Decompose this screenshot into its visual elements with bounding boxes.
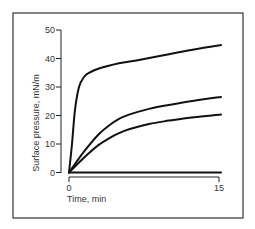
x-tick-label: 15 bbox=[214, 183, 224, 193]
y-tick-label: 50 bbox=[45, 25, 55, 35]
y-tick-label: 20 bbox=[45, 111, 55, 121]
y-tick-label: 10 bbox=[45, 139, 55, 149]
y-axis: 01020304050 bbox=[45, 25, 61, 178]
y-ticks: 01020304050 bbox=[45, 25, 61, 178]
y-axis-label: Surface pressure, mN/m bbox=[31, 74, 41, 172]
y-tick-label: 0 bbox=[50, 168, 55, 178]
series-line-curve-1 bbox=[69, 45, 221, 172]
data-series bbox=[69, 45, 221, 172]
x-ticks: 015 bbox=[66, 177, 224, 193]
y-tick-label: 30 bbox=[45, 82, 55, 92]
y-tick-label: 40 bbox=[45, 54, 55, 64]
series-line-curve-2 bbox=[69, 97, 221, 173]
x-tick-label: 0 bbox=[66, 183, 71, 193]
x-axis-label: Time, min bbox=[67, 194, 106, 204]
x-axis: 015 bbox=[66, 177, 224, 193]
surface-pressure-chart: 01020304050 015 Surface pressure, mN/m T… bbox=[0, 0, 255, 229]
